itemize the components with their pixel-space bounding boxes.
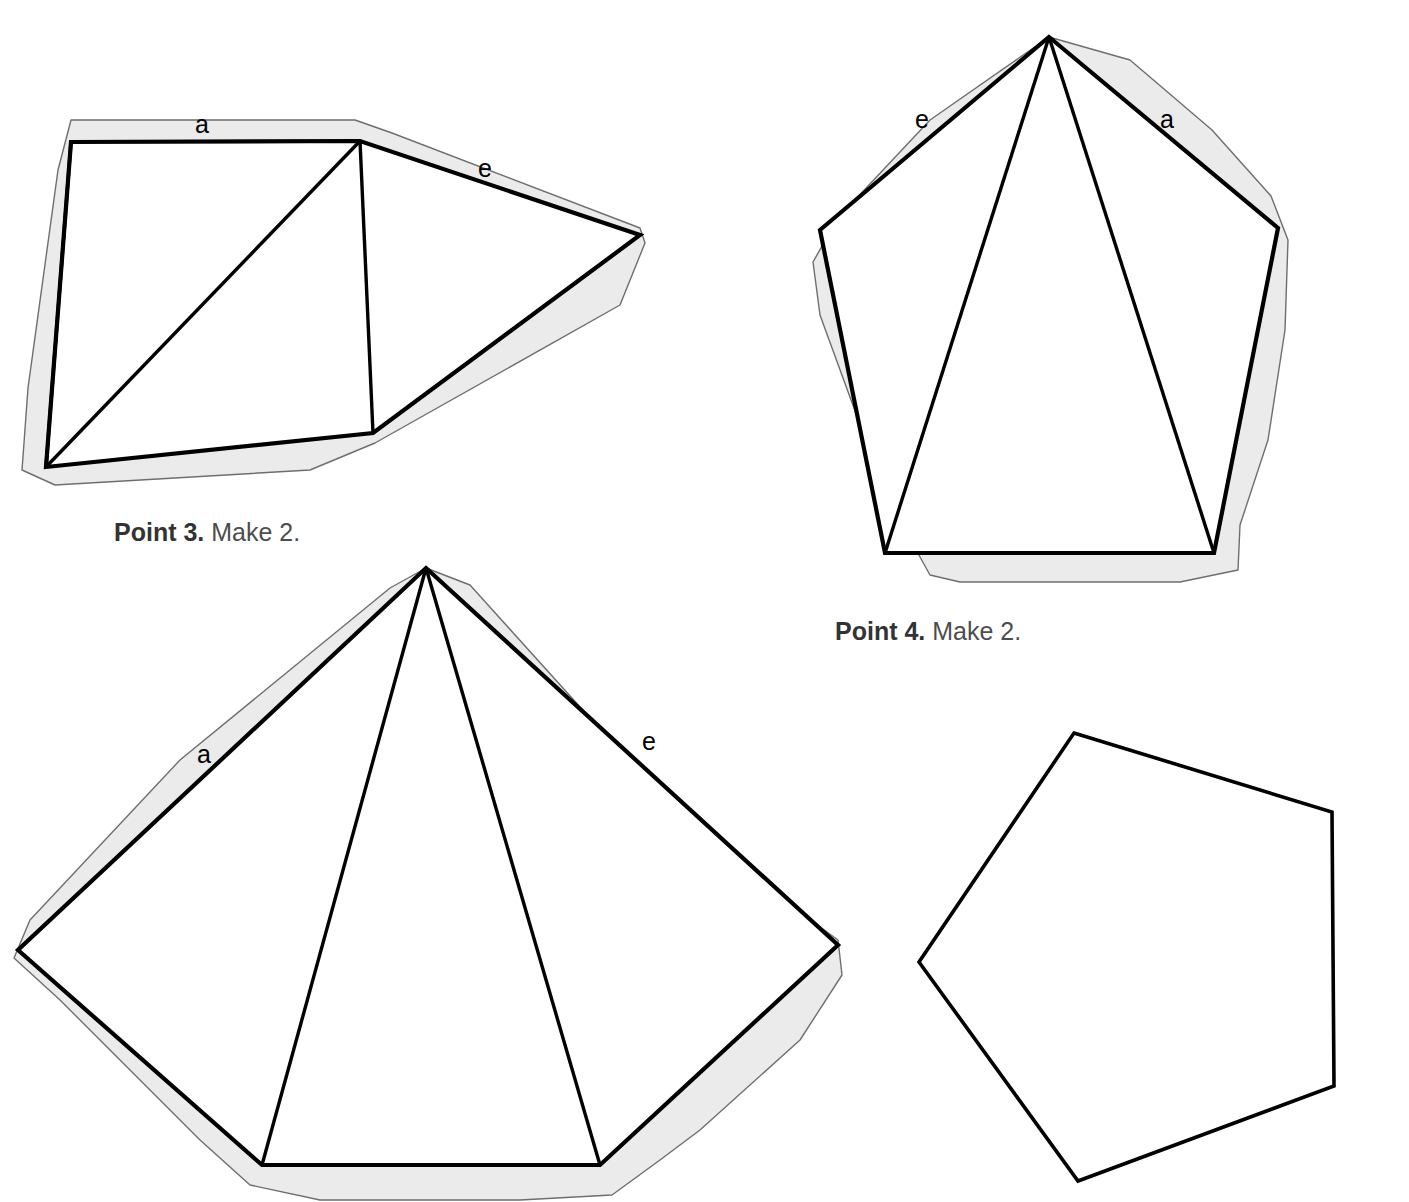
edge-label-a-point-3: a <box>195 112 209 137</box>
pattern-sheet: a e a e a e Point 3. Make 2. Point 4. Ma… <box>0 0 1409 1202</box>
figure-point-3 <box>22 120 645 485</box>
cut-outline-pentagon-base <box>919 733 1334 1181</box>
caption-point-4: Point 4. Make 2. <box>835 619 1021 644</box>
caption-point-3-title: Point 3. <box>114 518 204 546</box>
pattern-drawing-canvas <box>0 0 1409 1202</box>
caption-point-4-instruction: Make 2. <box>925 617 1021 645</box>
figure-pentagon-base <box>919 733 1334 1181</box>
figure-point-5 <box>14 568 842 1200</box>
cut-outline-point-4 <box>820 37 1278 553</box>
caption-point-4-title: Point 4. <box>835 617 925 645</box>
edge-label-a-point-4: a <box>1160 107 1174 132</box>
caption-point-3: Point 3. Make 2. <box>114 520 300 545</box>
edge-label-e-point-4: e <box>915 107 929 132</box>
figure-point-4 <box>813 37 1288 582</box>
edge-label-e-point-5: e <box>642 729 656 754</box>
caption-point-3-instruction: Make 2. <box>204 518 300 546</box>
edge-label-e-point-3: e <box>478 156 492 181</box>
edge-label-a-point-5: a <box>197 742 211 767</box>
